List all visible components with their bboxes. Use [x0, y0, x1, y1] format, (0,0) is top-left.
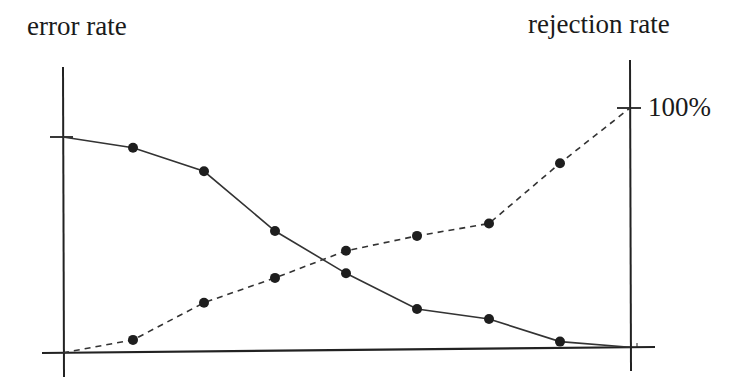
error-rate-point: [128, 143, 138, 153]
rejection-rate-point: [412, 231, 422, 241]
error-rate-point: [199, 166, 209, 176]
right-y-axis: [630, 60, 631, 371]
x-axis: [42, 347, 655, 353]
error-rate-point: [555, 337, 565, 347]
series-layer: [63, 108, 630, 353]
rejection-rate-point: [341, 246, 351, 256]
chart-canvas: [0, 0, 747, 390]
rejection-rate-point: [199, 298, 209, 308]
error-rate-line: [63, 137, 630, 347]
rejection-rate-point: [484, 218, 494, 228]
left-y-axis: [63, 67, 64, 377]
rejection-rate-point: [128, 335, 138, 345]
rejection-rate-line: [63, 108, 630, 353]
right-axis-title: rejection rate: [528, 11, 670, 38]
rejection-rate-point: [555, 158, 565, 168]
error-rate-point: [484, 314, 494, 324]
error-rate-point: [270, 226, 280, 236]
error-rejection-chart: error rate rejection rate 100%: [0, 0, 747, 390]
error-rate-point: [341, 268, 351, 278]
error-rate-point: [412, 304, 422, 314]
right-axis-tick-label-100: 100%: [648, 94, 711, 121]
left-axis-title: error rate: [27, 13, 127, 40]
rejection-rate-point: [270, 273, 280, 283]
